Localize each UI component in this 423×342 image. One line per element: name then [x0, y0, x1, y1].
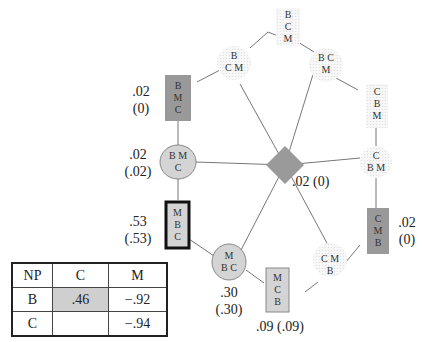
table-header-cell: C — [53, 263, 109, 288]
prob-left-dark-box: .02(0) — [126, 83, 156, 117]
node-right-dark-box-label: CMB — [367, 213, 389, 249]
prob-left-bold-box: .53(.53) — [118, 213, 158, 247]
table-header-row: NP C M — [12, 263, 167, 288]
prob-left-circle: .02(.02) — [118, 146, 158, 180]
prob-center-diamond: .02 (0) — [292, 173, 352, 190]
node-top-label: BCM — [276, 9, 300, 45]
table-header-cell: NP — [12, 263, 53, 288]
node-upper-left-dotted-label: BC M — [214, 50, 254, 74]
table-row: C −.94 — [12, 312, 167, 337]
node-left-circle-label: B MC — [158, 150, 198, 174]
table-cell: −.94 — [109, 312, 168, 337]
prob-right-dark-box: .02(0) — [392, 214, 422, 248]
node-right-mid-label: CB M — [356, 150, 396, 174]
np-table: NP C M B .46 −.92 C −.94 — [11, 262, 168, 337]
node-bottom-light-box-label: MCB — [266, 272, 289, 308]
node-lower-right-dotted-label: C MB — [310, 253, 350, 277]
table-cell: C — [12, 312, 53, 337]
table-cell: B — [12, 288, 53, 312]
prob-bottom-circle: .30(.30) — [209, 284, 249, 318]
node-bottom-circle-label: MB C — [209, 250, 249, 274]
table-cell-highlighted: .46 — [53, 288, 109, 312]
table-cell: −.92 — [109, 288, 168, 312]
node-left-bold-box-label: MBC — [166, 207, 189, 243]
table-header-cell: M — [109, 263, 168, 288]
node-right-top-label: CBM — [366, 86, 388, 122]
table-cell — [53, 312, 109, 337]
prob-bottom-light-box: .09 (.09) — [250, 318, 310, 335]
node-upper-right-dotted-label: B CM — [306, 52, 346, 76]
node-left-dark-box-label: BMC — [165, 80, 191, 116]
table-row: B .46 −.92 — [12, 288, 167, 312]
